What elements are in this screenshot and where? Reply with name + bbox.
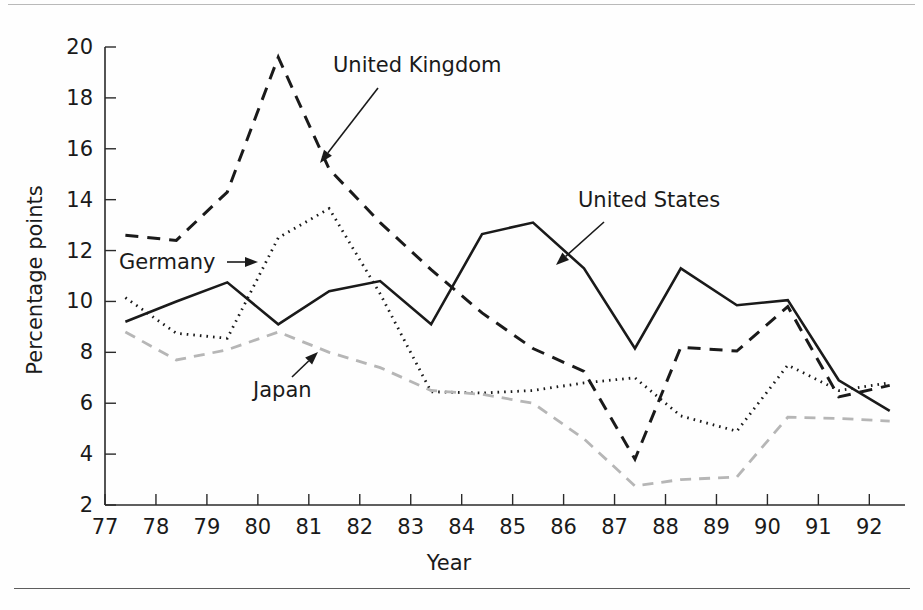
y-tick-label: 12 bbox=[66, 239, 93, 263]
y-tick-label: 10 bbox=[66, 289, 93, 313]
x-axis-title: Year bbox=[426, 551, 472, 575]
series-line-japan bbox=[125, 332, 889, 486]
annotation-japan: Japan bbox=[251, 378, 312, 402]
y-axis-title: Percentage points bbox=[23, 185, 47, 374]
annotation-germany: Germany bbox=[119, 250, 216, 274]
figure-container: 2468101214161820 77787980818283848586878… bbox=[0, 0, 923, 610]
x-tick-label: 89 bbox=[703, 515, 730, 539]
annotation-united-kingdom: United Kingdom bbox=[333, 53, 502, 77]
series-layer bbox=[125, 57, 889, 486]
y-axis: 2468101214161820 bbox=[66, 35, 116, 517]
x-tick-label: 77 bbox=[92, 515, 119, 539]
y-tick-label: 2 bbox=[80, 493, 93, 517]
line-chart: 2468101214161820 77787980818283848586878… bbox=[0, 0, 923, 610]
y-tick-label: 4 bbox=[80, 442, 93, 466]
y-tick-label: 18 bbox=[66, 86, 93, 110]
y-tick-label: 20 bbox=[66, 35, 93, 59]
x-tick-label: 87 bbox=[601, 515, 628, 539]
y-tick-label: 14 bbox=[66, 188, 93, 212]
y-tick-label: 6 bbox=[80, 391, 93, 415]
x-tick-label: 80 bbox=[244, 515, 271, 539]
x-tick-label: 91 bbox=[805, 515, 832, 539]
x-tick-label: 85 bbox=[499, 515, 526, 539]
arrow-head-icon bbox=[245, 257, 258, 267]
y-tick-label: 16 bbox=[66, 137, 93, 161]
x-tick-label: 79 bbox=[194, 515, 221, 539]
x-tick-label: 83 bbox=[397, 515, 424, 539]
x-axis: 77787980818283848586878889909192 bbox=[92, 494, 905, 539]
x-tick-label: 84 bbox=[448, 515, 475, 539]
x-tick-label: 90 bbox=[754, 515, 781, 539]
x-tick-label: 78 bbox=[143, 515, 170, 539]
x-tick-label: 81 bbox=[295, 515, 322, 539]
x-tick-label: 86 bbox=[550, 515, 577, 539]
x-tick-label: 82 bbox=[346, 515, 373, 539]
x-tick-label: 88 bbox=[652, 515, 679, 539]
annotation-united-states: United States bbox=[578, 188, 720, 212]
y-tick-label: 8 bbox=[80, 340, 93, 364]
x-tick-label: 92 bbox=[856, 515, 883, 539]
annotation-layer: United KingdomUnited StatesGermanyJapan bbox=[119, 53, 720, 402]
